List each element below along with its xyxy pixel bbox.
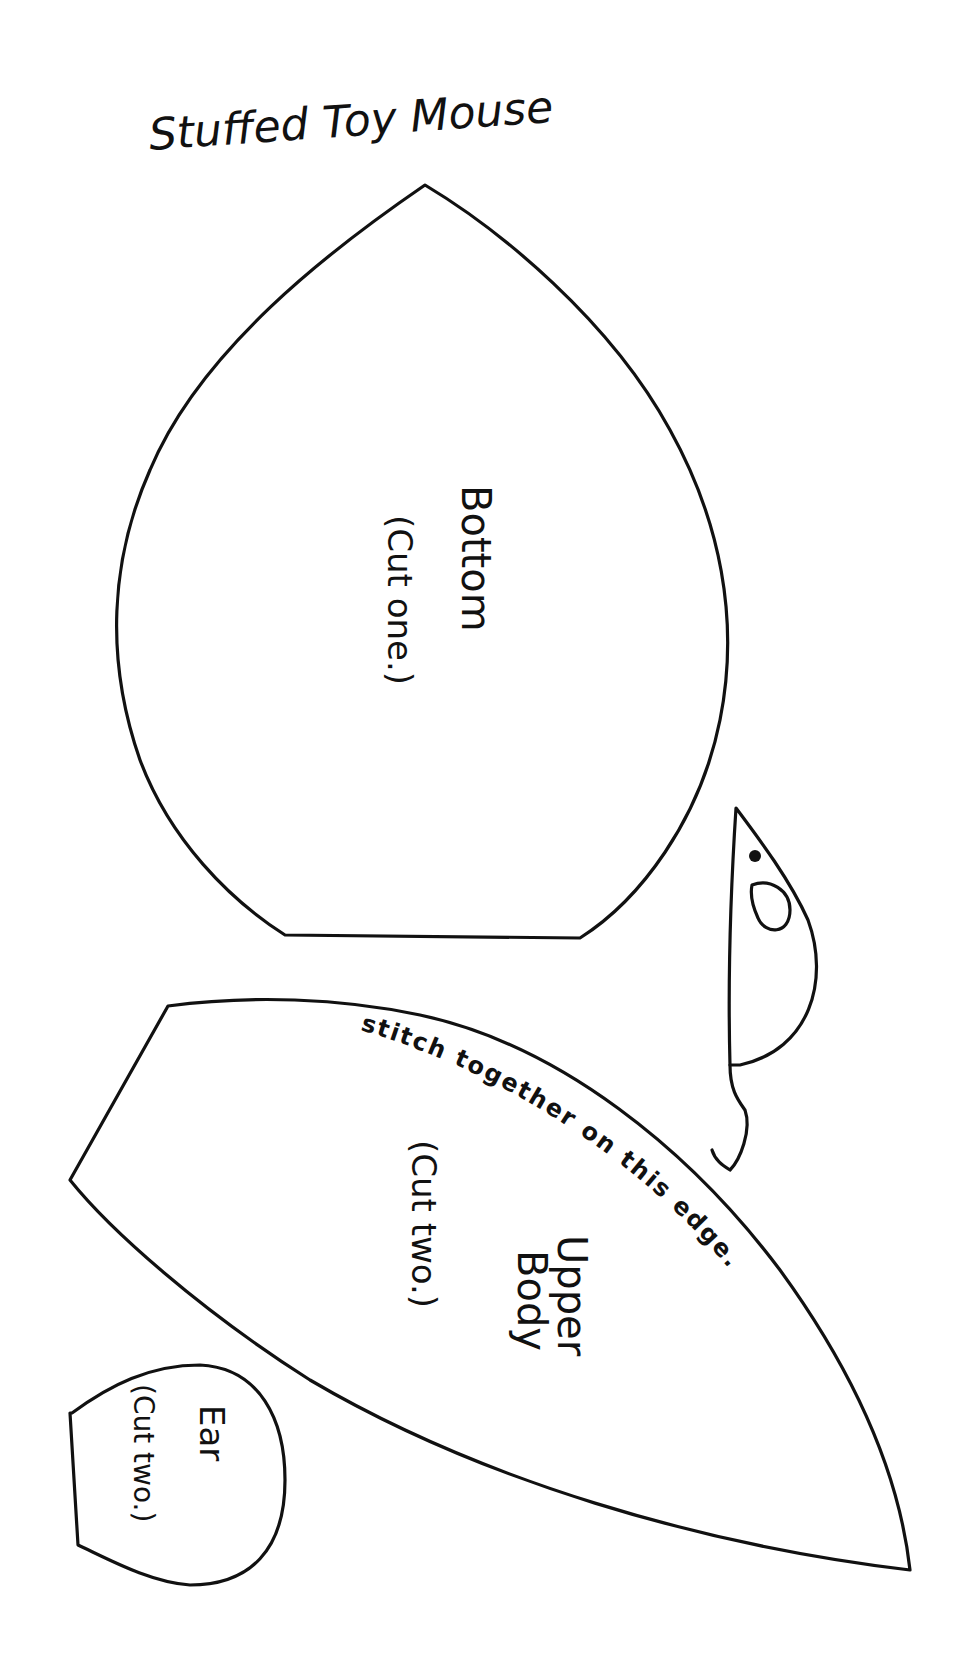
ear-piece-instruction: (Cut two.) [127, 1384, 160, 1522]
mouse-body-icon [729, 808, 816, 1065]
upper-body-label-line2: Body [509, 1250, 555, 1351]
mouse-illustration [712, 808, 817, 1170]
bottom-piece-label: Bottom [453, 485, 499, 632]
ear-piece-label: Ear [192, 1405, 232, 1461]
page-title: Stuffed Toy Mouse [147, 81, 555, 160]
mouse-ear-icon [751, 883, 790, 930]
mouse-eye-icon [749, 850, 761, 862]
mouse-tail-icon [712, 1065, 747, 1170]
upper-body-instruction: (Cut two.) [404, 1140, 444, 1308]
ear-piece: Ear (Cut two.) [70, 1365, 285, 1585]
bottom-piece-instruction: (Cut one.) [380, 515, 420, 685]
pattern-sheet: Stuffed Toy Mouse Bottom (Cut one.) stit… [0, 0, 972, 1665]
upper-body-piece: stitch together on this edge. Upper Body… [70, 1000, 910, 1570]
ear-piece-outline [70, 1365, 285, 1585]
bottom-piece: Bottom (Cut one.) [117, 185, 728, 938]
bottom-piece-outline [117, 185, 728, 938]
